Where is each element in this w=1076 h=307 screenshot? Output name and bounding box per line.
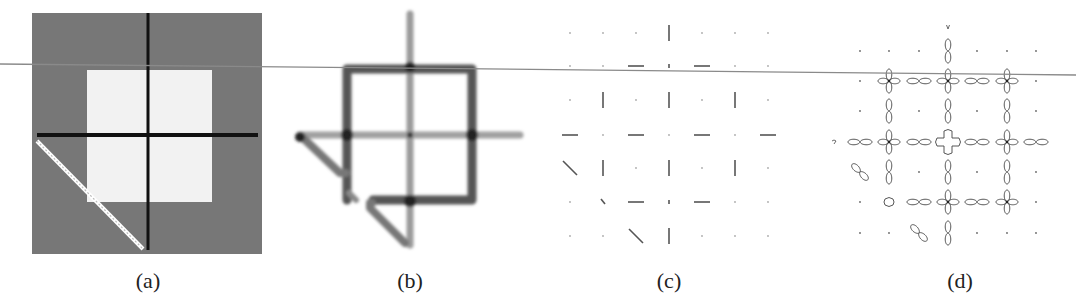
dot [734,134,736,136]
dot [888,50,890,52]
dot [767,32,769,34]
dot [1006,50,1008,52]
segment-ds [601,199,605,204]
glyph-horizontal-lobe [965,139,989,145]
glyph-diagonal-lobe [852,164,869,181]
dot [602,235,604,237]
panel-b-image [295,14,520,245]
dot [918,171,920,173]
glyph-vertical-lobe [1004,99,1010,123]
dot [635,99,637,101]
glyph-blob [884,198,894,207]
dot [701,99,703,101]
dot [602,134,604,136]
dot [918,50,920,52]
caption-b: (b) [397,268,423,294]
glyph-vertical-lobe [886,160,892,184]
glyph-horizontal-lobe [907,199,931,205]
dot [734,235,736,237]
caption-d: (d) [947,268,973,294]
glyph-horizontal-lobe [848,139,872,145]
dot [569,65,571,67]
glyph-vertical-lobe [945,99,951,123]
dot [859,232,861,234]
dot [859,50,861,52]
dot [1035,110,1037,112]
glyph-plus [936,130,961,155]
panel-c-line-segments [562,25,776,244]
segment-d [563,161,577,175]
caption-c: (c) [657,268,681,294]
segment-d [629,229,643,243]
dot [701,235,703,237]
dot [976,50,978,52]
dot [976,110,978,112]
glyph-horizontal-lobe [907,139,931,145]
glyph-diagonal-lobe [911,225,928,242]
dot [569,201,571,203]
glyph-vertical-lobe [1004,160,1010,184]
dot [859,80,861,82]
dot [976,171,978,173]
dot [888,232,890,234]
dot [635,167,637,169]
dot [1035,171,1037,173]
dot [859,201,861,203]
dot [1006,232,1008,234]
dot [1035,201,1037,203]
panel-b-left-triangle [302,137,346,173]
glyph-horizontal-lobe [965,199,989,205]
figure-canvas [0,0,1076,307]
dot [701,167,703,169]
glyph-horizontal-lobe [965,78,989,84]
glyph-vertical-lobe [945,160,951,184]
dot [767,167,769,169]
glyph-tiny-q [832,140,836,144]
glyph-horizontal-lobe [1024,139,1048,145]
dot [1035,232,1037,234]
glyph-vertical-lobe [945,39,951,63]
dot [602,65,604,67]
dot [767,235,769,237]
dot [918,110,920,112]
glyph-horizontal-lobe [907,78,931,84]
caption-a: (a) [136,268,160,294]
glyph-tiny-v [947,25,950,29]
dot [569,32,571,34]
panel-d-polar-glyphs [832,25,1048,245]
dot [602,32,604,34]
dot [1035,80,1037,82]
dot [1035,50,1037,52]
glyph-vertical-lobe [886,99,892,123]
panel-a-image [32,13,262,254]
dot [668,134,670,136]
glyph-vertical-lobe [945,221,951,245]
dot [976,232,978,234]
dot [767,99,769,101]
dot [701,32,703,34]
dot [767,201,769,203]
dot [734,32,736,34]
dot [859,110,861,112]
dot [569,99,571,101]
dot [734,201,736,203]
dot [635,32,637,34]
dot [734,65,736,67]
dot [569,235,571,237]
panel-b-bottom-triangle [370,203,405,243]
dot [767,65,769,67]
